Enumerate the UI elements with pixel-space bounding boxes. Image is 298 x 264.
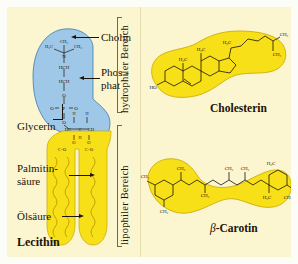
arrow-oelsaeure bbox=[79, 214, 84, 218]
callout-palmitin-line1: Palmitin- bbox=[17, 162, 58, 174]
atom-carotin-ch3-4: CH₃ bbox=[225, 166, 234, 171]
atom-carotin-ch3-3: CH₃ bbox=[201, 193, 210, 198]
region-label-lipophilic: lipophiler Bereich bbox=[119, 135, 130, 245]
atom-cholesterin-ch3-a: CH₃ bbox=[280, 32, 289, 37]
leader-palmitin bbox=[69, 175, 91, 176]
atom-ch: CH bbox=[88, 127, 95, 132]
callout-oelsaeure: Ölsäure bbox=[17, 210, 51, 222]
atom-nitrogen: N bbox=[62, 54, 66, 59]
atom-carotin-ch3-c: CH₃ bbox=[284, 195, 291, 200]
leader-phosphat bbox=[83, 78, 100, 79]
lecithin-title: Lecithin bbox=[17, 235, 60, 250]
carotin-lipophilic-shape bbox=[148, 159, 291, 214]
atom-hch-1: HCH bbox=[59, 65, 70, 70]
atom-hch-2: HCH bbox=[59, 79, 70, 84]
bracket-hydrophilic bbox=[117, 17, 118, 113]
atom-cholesterin-h3c-side: H₃C bbox=[223, 40, 232, 45]
atom-ch3-top: CH₃ bbox=[60, 39, 68, 44]
atom-co-2: C=O bbox=[85, 147, 94, 152]
lipophilic-tail-shape bbox=[47, 131, 111, 245]
atom-carotin-ch3-2: CH₃ bbox=[177, 166, 186, 171]
callout-glycerin: Glycerin bbox=[17, 120, 55, 132]
arrow-palmitin bbox=[90, 173, 95, 177]
atom-o-2: O bbox=[62, 120, 66, 125]
callout-palmitin-line2: säure bbox=[17, 175, 40, 187]
atom-c: C bbox=[78, 127, 81, 132]
cholesterin-graphic: HO H₃C H₃C H₃C CH₃ CH₃ bbox=[143, 15, 291, 135]
atom-h-b: H bbox=[85, 111, 88, 116]
atom-cholesterin-h3c-mid: H₃C bbox=[197, 47, 206, 52]
carotin-title: β-Carotin bbox=[210, 222, 258, 234]
cholesterin-title: Cholesterin bbox=[210, 102, 267, 114]
atom-carotin-ch3-5: CH₃ bbox=[160, 209, 169, 214]
atom-carotin-ch3-1: CH₃ bbox=[141, 174, 150, 179]
leader-glycerin-v bbox=[62, 104, 63, 119]
leader-cholin bbox=[75, 37, 99, 38]
leader-glycerin-h bbox=[53, 119, 63, 120]
atom-cholesterin-h3c-ring: H₃C bbox=[179, 57, 188, 62]
carotin-graphic: CH₃ CH₃ CH₃ CH₃ CH₃ CH₃ H₃C H₃C CH₃ bbox=[143, 145, 291, 255]
atom-cholesterin-ch3-b: CH₃ bbox=[273, 52, 282, 57]
atom-h-c: H bbox=[78, 135, 81, 140]
region-label-hydrophilic: hydrophiler Bereich bbox=[119, 19, 130, 113]
atom-hc: HC bbox=[65, 127, 71, 132]
atom-carotin-ch3-6: CH₃ bbox=[241, 166, 250, 171]
arrow-cholin bbox=[71, 35, 76, 39]
atom-o-left: O bbox=[50, 106, 54, 111]
atom-carotin-h3c-a: H₃C bbox=[267, 161, 276, 166]
leader-oelsaeure bbox=[62, 216, 80, 217]
arrow-phosphat bbox=[79, 76, 84, 80]
atom-ch3-right: CH₃ bbox=[74, 44, 82, 49]
atom-h-a: H bbox=[72, 111, 75, 116]
atom-carotin-h3c-b: H₃C bbox=[263, 195, 272, 200]
carotin-name-rest: -Carotin bbox=[216, 222, 258, 234]
bracket-lipophilic bbox=[117, 125, 118, 247]
column-divider bbox=[140, 7, 141, 257]
atom-o-1: O bbox=[62, 93, 66, 98]
atom-phosphorus: P bbox=[63, 106, 66, 111]
atom-cholesterin-ho: HO bbox=[149, 85, 157, 90]
figure-root: CH₃ H₃C CH₃ N HCH HCH O O P O O H H HC C… bbox=[0, 0, 298, 264]
atom-co-1: C=O bbox=[58, 147, 67, 152]
atom-h3c-left: H₃C bbox=[45, 44, 53, 49]
figure-panel: CH₃ H₃C CH₃ N HCH HCH O O P O O H H HC C… bbox=[7, 7, 291, 257]
